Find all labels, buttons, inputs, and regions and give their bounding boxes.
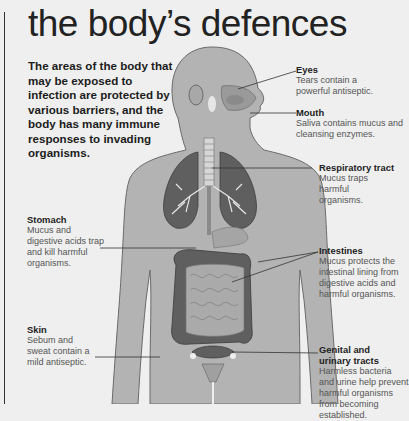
label-intestines-heading: Intestines: [319, 245, 409, 256]
label-stomach: Stomach Mucus and digestive acids trap a…: [27, 214, 117, 269]
salivary-gland: [208, 96, 216, 112]
label-stomach-text: Mucus and digestive acids trap and kill …: [27, 225, 107, 269]
label-mouth-text: Saliva contains mucus and cleansing enzy…: [296, 118, 404, 140]
uterus: [192, 346, 234, 358]
label-genital-heading: Genital and urinary tracts: [319, 344, 389, 366]
ovary-left: [190, 353, 196, 359]
label-respiratory: Respiratory tract Mucus traps harmful or…: [319, 162, 409, 206]
label-intestines: Intestines Mucus protects the intestinal…: [319, 245, 409, 300]
ear: [189, 85, 203, 105]
label-mouth: Mouth Saliva contains mucus and cleansin…: [296, 107, 406, 140]
label-intestines-text: Mucus protects the intestinal lining fro…: [319, 256, 407, 300]
label-eyes: Eyes Tears contain a powerful antiseptic…: [296, 64, 406, 97]
label-respiratory-text: Mucus traps harmful organisms.: [319, 173, 395, 206]
label-mouth-heading: Mouth: [296, 107, 406, 118]
label-stomach-heading: Stomach: [27, 214, 117, 225]
label-genital-text: Harmless bacteria and urine help prevent…: [319, 366, 409, 421]
label-skin: Skin Sebum and sweat contain a mild anti…: [27, 324, 107, 368]
small-intestine: [186, 264, 244, 336]
label-eyes-text: Tears contain a powerful antiseptic.: [296, 75, 376, 97]
tongue: [226, 95, 244, 105]
label-respiratory-heading: Respiratory tract: [319, 162, 409, 173]
ovary-right: [230, 353, 236, 359]
label-genital: Genital and urinary tracts Harmless bact…: [319, 344, 409, 421]
label-skin-text: Sebum and sweat contain a mild antisepti…: [27, 335, 91, 368]
label-eyes-heading: Eyes: [296, 64, 406, 75]
label-skin-heading: Skin: [27, 324, 107, 335]
